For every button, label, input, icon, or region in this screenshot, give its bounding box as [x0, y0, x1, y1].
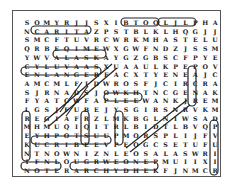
grid-letter[interactable]: O: [101, 88, 111, 97]
grid-letter[interactable]: O: [141, 18, 151, 27]
grid-letter[interactable]: Y: [32, 96, 42, 105]
grid-letter[interactable]: C: [121, 70, 131, 79]
grid-letter[interactable]: O: [131, 140, 141, 149]
grid-letter[interactable]: S: [81, 88, 91, 97]
grid-letter[interactable]: E: [161, 70, 171, 79]
grid-letter[interactable]: J: [171, 18, 181, 27]
grid-letter[interactable]: A: [62, 114, 72, 123]
grid-letter[interactable]: G: [131, 105, 141, 114]
grid-letter[interactable]: F: [180, 53, 190, 62]
grid-letter[interactable]: B: [131, 122, 141, 131]
grid-letter[interactable]: E: [121, 149, 131, 158]
grid-letter[interactable]: P: [210, 122, 220, 131]
grid-letter[interactable]: R: [91, 157, 101, 166]
grid-letter[interactable]: R: [151, 105, 161, 114]
grid-letter[interactable]: X: [200, 157, 210, 166]
grid-letter[interactable]: O: [131, 131, 141, 140]
grid-letter[interactable]: S: [111, 27, 121, 36]
grid-letter[interactable]: G: [141, 53, 151, 62]
grid-letter[interactable]: P: [161, 131, 171, 140]
grid-letter[interactable]: M: [52, 79, 62, 88]
grid-letter[interactable]: S: [81, 131, 91, 140]
grid-letter[interactable]: I: [111, 18, 121, 27]
grid-letter[interactable]: P: [190, 53, 200, 62]
grid-letter[interactable]: S: [171, 35, 181, 44]
grid-letter[interactable]: J: [151, 79, 161, 88]
grid-letter[interactable]: R: [52, 27, 62, 36]
grid-letter[interactable]: L: [161, 27, 171, 36]
grid-letter[interactable]: Z: [171, 44, 181, 53]
grid-letter[interactable]: R: [81, 114, 91, 123]
grid-letter[interactable]: I: [190, 157, 200, 166]
grid-letter[interactable]: N: [101, 149, 111, 158]
grid-letter[interactable]: J: [72, 18, 82, 27]
grid-letter[interactable]: I: [180, 157, 190, 166]
grid-letter[interactable]: J: [171, 166, 181, 175]
grid-letter[interactable]: Y: [200, 53, 210, 62]
grid-letter[interactable]: L: [171, 131, 181, 140]
grid-letter[interactable]: A: [171, 149, 181, 158]
grid-letter[interactable]: I: [81, 79, 91, 88]
grid-letter[interactable]: T: [52, 96, 62, 105]
grid-letter[interactable]: E: [81, 140, 91, 149]
grid-letter[interactable]: L: [151, 62, 161, 71]
grid-letter[interactable]: M: [32, 35, 42, 44]
grid-letter[interactable]: E: [32, 114, 42, 123]
grid-letter[interactable]: R: [210, 166, 220, 175]
grid-letter[interactable]: K: [121, 114, 131, 123]
grid-letter[interactable]: C: [151, 140, 161, 149]
grid-letter[interactable]: E: [200, 96, 210, 105]
grid-letter[interactable]: Y: [32, 62, 42, 71]
grid-letter[interactable]: B: [121, 18, 131, 27]
grid-letter[interactable]: E: [180, 62, 190, 71]
grid-letter[interactable]: C: [161, 88, 171, 97]
grid-letter[interactable]: W: [190, 149, 200, 158]
grid-letter[interactable]: T: [131, 18, 141, 27]
grid-letter[interactable]: C: [210, 70, 220, 79]
grid-letter[interactable]: R: [121, 35, 131, 44]
grid-letter[interactable]: T: [72, 27, 82, 36]
grid-letter[interactable]: G: [81, 157, 91, 166]
grid-letter[interactable]: L: [121, 122, 131, 131]
grid-letter[interactable]: F: [22, 96, 32, 105]
grid-letter[interactable]: I: [210, 157, 220, 166]
grid-letter[interactable]: A: [81, 27, 91, 36]
grid-letter[interactable]: I: [141, 122, 151, 131]
grid-letter[interactable]: L: [151, 114, 161, 123]
grid-letter[interactable]: O: [121, 79, 131, 88]
grid-letter[interactable]: E: [171, 140, 181, 149]
grid-letter[interactable]: S: [161, 140, 171, 149]
grid-letter[interactable]: E: [141, 166, 151, 175]
grid-letter[interactable]: A: [62, 88, 72, 97]
grid-letter[interactable]: F: [161, 166, 171, 175]
grid-letter[interactable]: N: [22, 27, 32, 36]
grid-letter[interactable]: P: [151, 157, 161, 166]
grid-letter[interactable]: M: [210, 44, 220, 53]
grid-letter[interactable]: R: [200, 79, 210, 88]
grid-letter[interactable]: U: [210, 140, 220, 149]
grid-letter[interactable]: U: [111, 62, 121, 71]
grid-letter[interactable]: A: [200, 88, 210, 97]
grid-letter[interactable]: V: [62, 62, 72, 71]
grid-letter[interactable]: F: [141, 79, 151, 88]
grid-letter[interactable]: F: [52, 35, 62, 44]
grid-letter[interactable]: T: [32, 149, 42, 158]
grid-letter[interactable]: A: [210, 79, 220, 88]
grid-letter[interactable]: I: [210, 149, 220, 158]
grid-letter[interactable]: U: [32, 140, 42, 149]
grid-letter[interactable]: K: [151, 166, 161, 175]
grid-letter[interactable]: P: [111, 131, 121, 140]
grid-letter[interactable]: R: [141, 131, 151, 140]
grid-letter[interactable]: L: [161, 18, 171, 27]
grid-letter[interactable]: E: [22, 70, 32, 79]
grid-letter[interactable]: N: [52, 88, 62, 97]
grid-letter[interactable]: M: [190, 166, 200, 175]
grid-letter[interactable]: A: [190, 70, 200, 79]
grid-letter[interactable]: R: [111, 79, 121, 88]
grid-letter[interactable]: J: [101, 105, 111, 114]
grid-letter[interactable]: B: [151, 53, 161, 62]
grid-letter[interactable]: J: [190, 131, 200, 140]
grid-letter[interactable]: A: [111, 70, 121, 79]
grid-letter[interactable]: I: [52, 114, 62, 123]
grid-letter[interactable]: J: [81, 18, 91, 27]
